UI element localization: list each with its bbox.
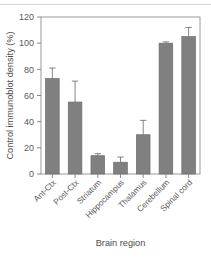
bar-thalamus bbox=[136, 135, 150, 174]
x-axis-tick-label-post-ctx: Post-Ctx bbox=[52, 178, 81, 207]
bar-chart: 020406080100120Control immunoblot densit… bbox=[0, 0, 211, 259]
y-axis-tick-label: 60 bbox=[24, 91, 34, 101]
figure-canvas: 020406080100120Control immunoblot densit… bbox=[0, 0, 211, 259]
y-axis-tick-label: 20 bbox=[24, 143, 34, 153]
x-axis-title: Brain region bbox=[96, 238, 146, 248]
bar-spinal-cord bbox=[182, 37, 196, 174]
y-axis-title: Control immunoblot density (%) bbox=[5, 31, 15, 159]
y-axis-tick-label: 0 bbox=[29, 169, 34, 179]
plot-frame bbox=[41, 17, 200, 174]
y-axis-tick-label: 120 bbox=[19, 12, 34, 22]
y-axis-tick-label: 80 bbox=[24, 65, 34, 75]
bar-striatum bbox=[91, 156, 105, 174]
y-axis-tick-label: 100 bbox=[19, 38, 34, 48]
bar-ant-ctx bbox=[46, 78, 60, 174]
bar-post-ctx bbox=[68, 102, 82, 174]
y-axis-tick-label: 40 bbox=[24, 117, 34, 127]
bar-cerebellum bbox=[159, 43, 173, 174]
top-divider-rule bbox=[0, 4, 211, 5]
bar-hippocampus bbox=[114, 162, 128, 174]
